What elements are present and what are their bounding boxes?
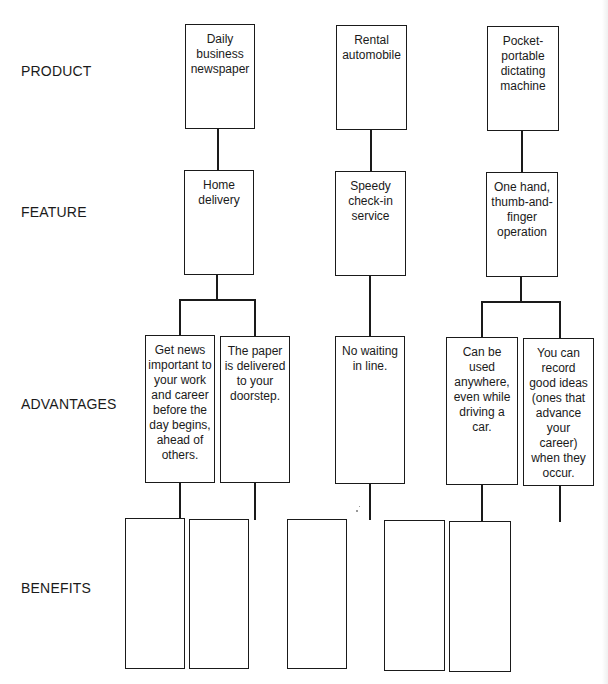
page-edge-shadow: [602, 0, 608, 684]
advantage-box-record-ideas: You can record good ideas (ones that adv…: [523, 338, 594, 486]
feature-box-speedy-check-in: Speedy check-in service: [335, 171, 406, 276]
feature-box-home-delivery: Home delivery: [184, 170, 254, 275]
product-box-rental-automobile: Rental automobile: [336, 25, 407, 130]
advantage-text: You can record good ideas (ones that adv…: [524, 346, 593, 481]
product-box-dictating-machine: Pocket- portable dictating machine: [487, 26, 559, 131]
advantage-box-used-anywhere: Can be used anywhere, even while driving…: [446, 337, 518, 485]
branch-line: [481, 301, 560, 303]
advantage-text: Can be used anywhere, even while driving…: [447, 345, 517, 435]
connector-line: [559, 485, 561, 522]
advantage-box-get-news: Get news important to your work and care…: [145, 335, 215, 483]
row-label-benefits: BENEFITS: [21, 580, 91, 596]
connector-line: [254, 482, 256, 520]
connector-line: [481, 484, 483, 521]
benefit-box-empty: [449, 521, 511, 672]
connector-line: [370, 129, 372, 172]
advantage-box-no-waiting: No waiting in line.: [335, 336, 405, 484]
product-text: Rental automobile: [337, 33, 406, 63]
connector-line: [520, 276, 522, 302]
connector-line: [254, 299, 256, 336]
row-label-advantages: ADVANTAGES: [21, 396, 117, 412]
row-label-product: PRODUCT: [21, 63, 92, 79]
advantage-text: No waiting in line.: [336, 344, 404, 374]
connector-line: [481, 301, 483, 338]
feature-text: Home delivery: [185, 178, 253, 208]
benefit-box-empty: [189, 519, 249, 669]
feature-box-one-hand-operation: One hand, thumb-and- finger operation: [486, 172, 558, 277]
advantage-box-paper-delivered: The paper is delivered to your doorstep.: [220, 336, 290, 483]
advantage-text: Get news important to your work and care…: [146, 343, 214, 463]
connector-line: [559, 301, 561, 339]
product-box-newspaper: Daily business newspaper: [185, 24, 255, 129]
feature-text: One hand, thumb-and- finger operation: [487, 180, 557, 240]
advantage-text: The paper is delivered to your doorstep.: [221, 344, 289, 404]
connector-line: [216, 274, 218, 300]
feature-text: Speedy check-in service: [336, 179, 405, 224]
scan-speck: [356, 510, 358, 512]
connector-line: [179, 299, 181, 336]
product-text: Pocket- portable dictating machine: [488, 34, 558, 94]
branch-line: [179, 299, 255, 301]
benefit-box-empty: [384, 520, 445, 671]
connector-line: [217, 128, 219, 171]
product-text: Daily business newspaper: [186, 32, 254, 77]
connector-line: [369, 275, 371, 337]
connector-line: [179, 482, 181, 519]
benefit-box-empty: [287, 519, 347, 669]
connector-line: [369, 483, 371, 520]
scan-speck: [359, 506, 360, 507]
row-label-feature: FEATURE: [21, 204, 87, 220]
benefit-box-empty: [125, 518, 185, 669]
connector-line: [521, 130, 523, 173]
